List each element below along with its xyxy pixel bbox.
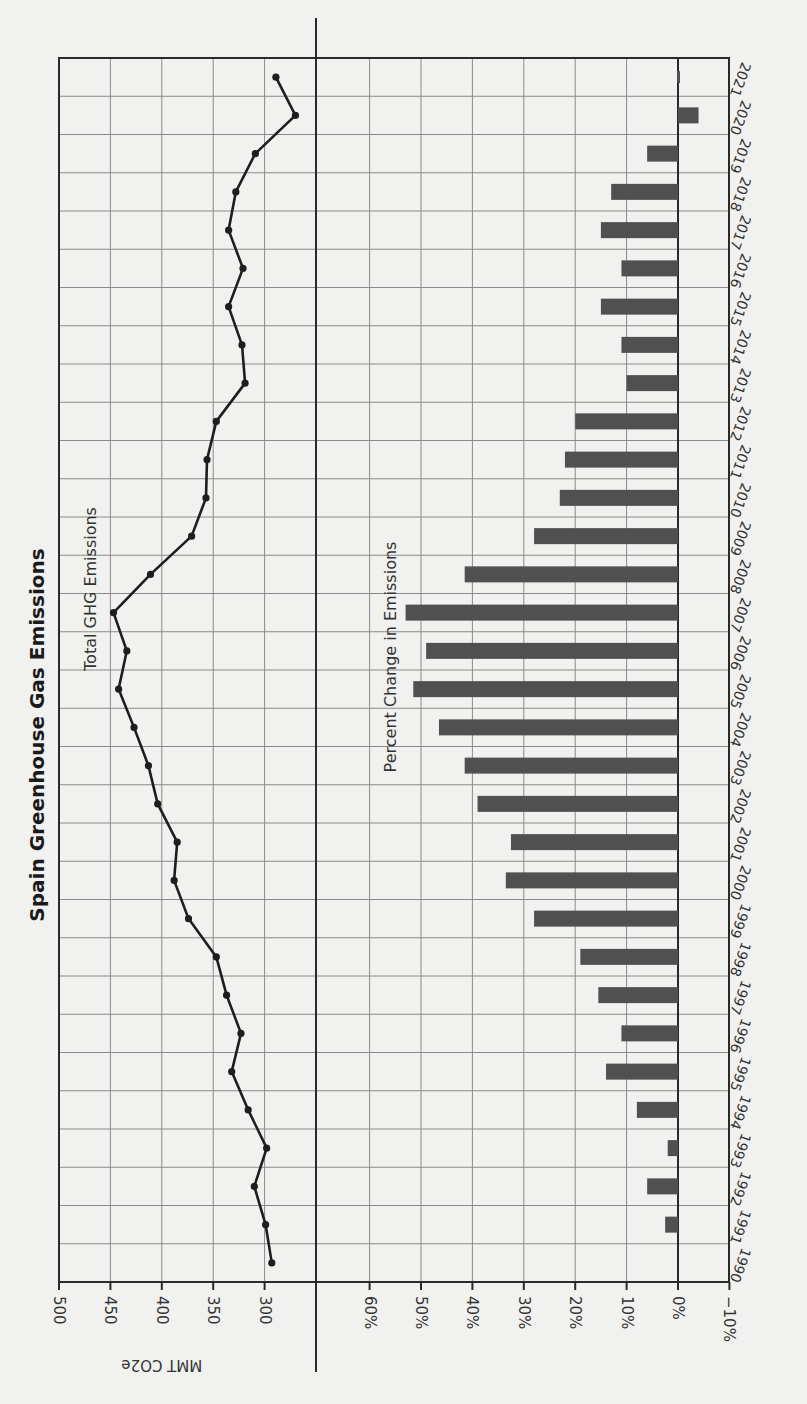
pct-tick-label: 10% xyxy=(618,1296,636,1329)
year-label-1991: 1991 xyxy=(727,1208,754,1247)
pct-tick-label: 50% xyxy=(412,1296,430,1329)
bar-2002 xyxy=(478,796,678,812)
bar-2012 xyxy=(575,413,678,429)
year-label-2009: 2009 xyxy=(727,519,754,558)
bar-2019 xyxy=(647,146,678,162)
data-point-2020 xyxy=(292,112,299,119)
bar-2003 xyxy=(465,758,678,774)
bar-1994 xyxy=(637,1102,678,1118)
bar-1998 xyxy=(580,949,678,965)
bar-series-label: Percent Change in Emissions xyxy=(381,542,400,773)
mmt-axis-label: MMT CO2e xyxy=(121,1356,202,1374)
data-point-1991 xyxy=(262,1221,269,1228)
year-label-2018: 2018 xyxy=(727,175,754,214)
bar-1997 xyxy=(598,987,678,1003)
year-label-2006: 2006 xyxy=(727,634,754,673)
year-label-1995: 1995 xyxy=(727,1055,754,1094)
data-point-2003 xyxy=(145,762,152,769)
year-label-1992: 1992 xyxy=(727,1169,754,1208)
data-point-2014 xyxy=(238,341,245,348)
mmt-tick-label: 450 xyxy=(101,1296,119,1325)
data-point-2009 xyxy=(188,533,195,540)
year-label-2008: 2008 xyxy=(727,557,754,596)
bar-1999 xyxy=(534,911,678,927)
chart-title: Spain Greenhouse Gas Emissions xyxy=(25,548,49,921)
data-point-2016 xyxy=(239,265,246,272)
year-label-2004: 2004 xyxy=(727,710,754,749)
bar-2018 xyxy=(611,184,678,200)
data-point-1990 xyxy=(268,1259,275,1266)
bar-2021 xyxy=(677,71,680,83)
data-point-1999 xyxy=(185,915,192,922)
data-point-2001 xyxy=(174,839,181,846)
page: 50045040035030060%50%40%30%20%10%0%−10%M… xyxy=(0,0,807,1404)
data-point-1998 xyxy=(213,953,220,960)
data-point-1992 xyxy=(251,1183,258,1190)
bar-2010 xyxy=(560,490,678,506)
data-point-2002 xyxy=(154,800,161,807)
year-label-2019: 2019 xyxy=(727,137,754,176)
bar-2014 xyxy=(621,337,678,353)
data-point-2006 xyxy=(123,647,130,654)
year-label-1999: 1999 xyxy=(727,902,754,941)
year-label-2000: 2000 xyxy=(727,863,754,902)
mmt-tick-label: 500 xyxy=(50,1296,68,1325)
bar-2017 xyxy=(601,222,678,238)
year-label-2002: 2002 xyxy=(727,787,754,826)
data-point-1994 xyxy=(245,1106,252,1113)
year-label-2007: 2007 xyxy=(727,596,754,635)
data-point-2005 xyxy=(115,686,122,693)
pct-tick-label: −10% xyxy=(720,1296,738,1342)
pct-tick-label: 20% xyxy=(566,1296,584,1329)
line-series-label: Total GHG Emissions xyxy=(81,507,100,672)
pct-tick-label: 30% xyxy=(515,1296,533,1329)
year-label-2013: 2013 xyxy=(727,366,754,405)
year-label-2015: 2015 xyxy=(727,290,754,329)
year-label-1994: 1994 xyxy=(727,1093,754,1132)
data-point-2018 xyxy=(232,188,239,195)
year-label-1997: 1997 xyxy=(727,978,754,1017)
data-point-1993 xyxy=(263,1145,270,1152)
bar-2000 xyxy=(506,872,678,888)
year-label-2003: 2003 xyxy=(727,749,754,788)
bar-2013 xyxy=(627,375,678,391)
pct-tick-label: 40% xyxy=(463,1296,481,1329)
data-point-2015 xyxy=(225,303,232,310)
bar-1993 xyxy=(668,1140,678,1156)
data-point-2012 xyxy=(213,418,220,425)
mmt-tick-label: 300 xyxy=(256,1296,274,1325)
bar-1992 xyxy=(647,1178,678,1194)
bar-1991 xyxy=(665,1217,678,1233)
bar-1996 xyxy=(621,1025,678,1041)
year-label-2021: 2021 xyxy=(727,60,754,99)
data-point-2007 xyxy=(110,609,117,616)
data-point-2021 xyxy=(272,74,279,81)
bar-2001 xyxy=(511,834,678,850)
data-point-2017 xyxy=(225,227,232,234)
data-point-2019 xyxy=(252,150,259,157)
data-point-2008 xyxy=(147,571,154,578)
bar-2004 xyxy=(439,719,678,735)
year-label-2001: 2001 xyxy=(727,825,754,864)
year-label-1996: 1996 xyxy=(727,1016,754,1055)
year-label-1998: 1998 xyxy=(727,940,754,979)
year-label-1990: 1990 xyxy=(727,1246,754,1285)
bar-2006 xyxy=(426,643,678,659)
bar-2016 xyxy=(621,260,678,276)
mmt-tick-label: 350 xyxy=(204,1296,222,1325)
year-label-1993: 1993 xyxy=(727,1131,754,1170)
bar-2020 xyxy=(678,107,699,123)
pct-tick-label: 0% xyxy=(669,1296,687,1320)
bar-1995 xyxy=(606,1064,678,1080)
data-point-2004 xyxy=(130,724,137,731)
year-label-2020: 2020 xyxy=(727,98,754,137)
data-point-2013 xyxy=(241,380,248,387)
year-label-2011: 2011 xyxy=(727,443,754,482)
bar-2007 xyxy=(406,605,678,621)
bar-2009 xyxy=(534,528,678,544)
bar-2011 xyxy=(565,452,678,468)
data-point-1996 xyxy=(237,1030,244,1037)
bar-2015 xyxy=(601,299,678,315)
ghg-chart: 50045040035030060%50%40%30%20%10%0%−10%M… xyxy=(0,0,807,1404)
year-label-2016: 2016 xyxy=(727,251,754,290)
